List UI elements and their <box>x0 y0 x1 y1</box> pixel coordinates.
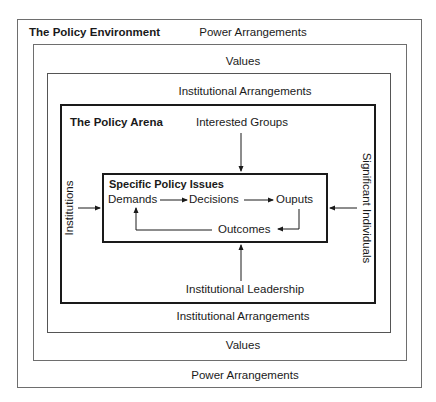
outcomes-node: Outcomes <box>218 224 270 236</box>
values-top-label: Values <box>226 56 260 68</box>
decisions-node: Decisions <box>189 194 239 206</box>
institutional-leadership-label: Institutional Leadership <box>186 284 304 296</box>
institutional-arrangements-bottom-label: Institutional Arrangements <box>177 311 310 323</box>
demands-node: Demands <box>108 194 157 206</box>
power-arrangements-bottom-label: Power Arrangements <box>191 370 298 382</box>
significant-individuals-label: Significant Individuals <box>360 153 372 264</box>
specific-policy-issues-title: Specific Policy Issues <box>109 179 224 190</box>
institutions-label: Institutions <box>64 181 76 236</box>
interested-groups-label: Interested Groups <box>196 117 288 129</box>
policy-arena-title: The Policy Arena <box>70 117 163 129</box>
power-arrangements-top-label: Power Arrangements <box>199 27 306 39</box>
policy-environment-title: The Policy Environment <box>29 27 160 39</box>
values-bottom-label: Values <box>226 340 260 352</box>
outputs-node: Ouputs <box>276 194 313 206</box>
institutional-arrangements-top-label: Institutional Arrangements <box>179 86 312 98</box>
